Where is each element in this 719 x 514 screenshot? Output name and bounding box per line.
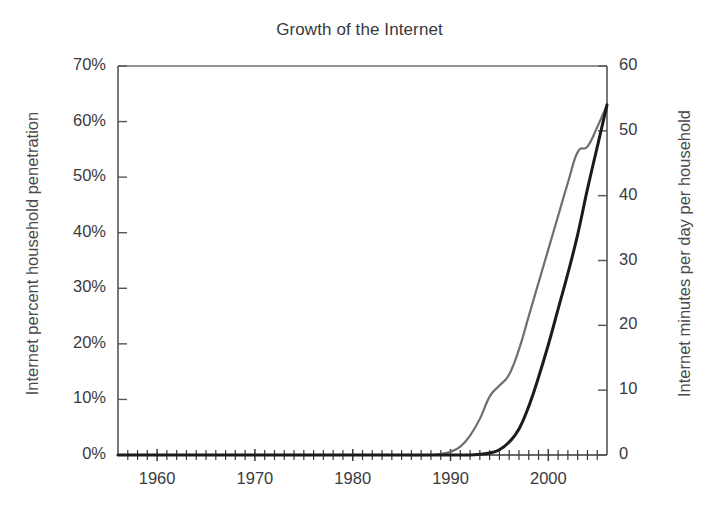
series-line-household-penetration [118,105,607,455]
y-right-tick-label-30: 30 [619,250,679,269]
tick-marks [118,66,607,461]
y-left-tick-label-50%: 50% [46,166,106,185]
y-right-tick-label-10: 10 [619,379,679,398]
x-tick-label-1970: 1970 [215,469,295,488]
y-left-tick-label-40%: 40% [46,222,106,241]
y-left-tick-label-70%: 70% [46,55,106,74]
series-line-minutes-per-day [118,105,607,455]
x-tick-label-2000: 2000 [508,469,588,488]
y-right-tick-label-40: 40 [619,185,679,204]
x-tick-label-1990: 1990 [411,469,491,488]
x-tick-label-1960: 1960 [117,469,197,488]
plot-area [0,0,719,514]
y-left-tick-label-0%: 0% [46,444,106,463]
y-right-tick-label-0: 0 [619,444,679,463]
y-right-tick-label-20: 20 [619,314,679,333]
x-tick-label-1980: 1980 [313,469,393,488]
internet-growth-chart: Growth of the Internet Internet percent … [0,0,719,514]
series-lines [118,105,607,455]
y-left-tick-label-20%: 20% [46,333,106,352]
y-left-tick-label-30%: 30% [46,277,106,296]
y-right-tick-label-60: 60 [619,55,679,74]
y-left-tick-label-60%: 60% [46,111,106,130]
y-left-tick-label-10%: 10% [46,388,106,407]
y-right-tick-label-50: 50 [619,120,679,139]
